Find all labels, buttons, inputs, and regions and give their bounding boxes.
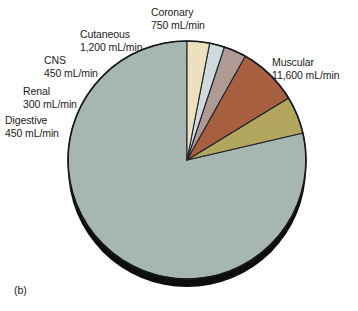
slice-label-muscular-name: Muscular	[272, 56, 339, 69]
slice-label-coronary-name: Coronary	[151, 6, 205, 19]
slice-label-muscular-value: 11,600 mL/min	[272, 69, 339, 82]
slice-label-renal: Renal 300 mL/min	[23, 85, 77, 110]
slice-label-digestive: Digestive 450 mL/min	[5, 114, 59, 139]
figure-panel: Coronary 750 mL/min Cutaneous 1,200 mL/m…	[0, 0, 358, 311]
slice-label-cutaneous-value: 1,200 mL/min	[80, 41, 142, 54]
pie-chart	[0, 0, 358, 311]
slice-label-cutaneous-name: Cutaneous	[80, 28, 142, 41]
pie-slice-group	[68, 41, 306, 279]
slice-label-cns-name: CNS	[44, 54, 98, 67]
slice-label-coronary-value: 750 mL/min	[151, 19, 205, 32]
slice-label-cutaneous: Cutaneous 1,200 mL/min	[80, 28, 142, 53]
slice-label-muscular: Muscular 11,600 mL/min	[272, 56, 339, 81]
slice-label-cns: CNS 450 mL/min	[44, 54, 98, 79]
slice-label-coronary: Coronary 750 mL/min	[151, 6, 205, 31]
slice-label-renal-value: 300 mL/min	[23, 98, 77, 111]
panel-letter: (b)	[14, 284, 27, 296]
slice-label-cns-value: 450 mL/min	[44, 67, 98, 80]
slice-label-renal-name: Renal	[23, 85, 77, 98]
slice-label-digestive-value: 450 mL/min	[5, 127, 59, 140]
slice-label-digestive-name: Digestive	[5, 114, 59, 127]
